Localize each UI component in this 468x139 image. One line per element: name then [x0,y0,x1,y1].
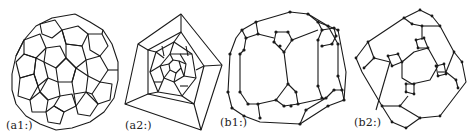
panel-label-a1: (a1:) [6,119,33,132]
panel-label-b1: (b1:) [220,116,247,129]
panel-b1: (b1:) [218,0,350,139]
panel-label-b2: (b2:) [354,116,381,129]
panel-label-a2: (a2:) [125,119,152,132]
panel-a1: (a1:) [0,0,120,139]
panel-b2: (b2:) [348,0,468,139]
panel-a2: (a2:) [118,0,228,139]
